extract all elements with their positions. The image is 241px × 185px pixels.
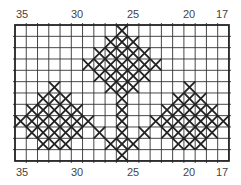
stitch-chart-grid	[0, 0, 241, 185]
bottom-column-label: 20	[183, 167, 195, 178]
bottom-column-label: 25	[127, 167, 139, 178]
bottom-column-label: 30	[71, 167, 83, 178]
bottom-column-label: 35	[16, 167, 28, 178]
bottom-column-label: 17	[216, 167, 228, 178]
